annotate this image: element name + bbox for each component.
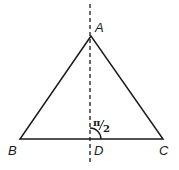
triangle-ABC xyxy=(20,36,163,139)
triangle-diagram: A B C D π 2 xyxy=(0,0,179,170)
angle-label-pi-over-2: π 2 xyxy=(93,117,110,134)
label-A: A xyxy=(94,20,104,35)
label-C: C xyxy=(159,143,169,158)
label-B: B xyxy=(8,143,17,158)
label-D: D xyxy=(94,143,103,158)
angle-denominator: 2 xyxy=(103,123,110,134)
angle-numerator: π xyxy=(93,117,100,128)
